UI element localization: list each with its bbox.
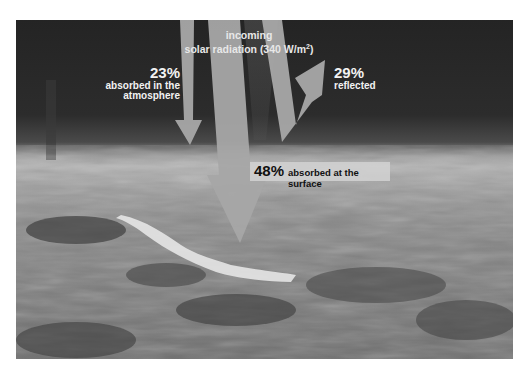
surface-label: 48% absorbed at the surface xyxy=(250,162,390,181)
title-line-2: solar radiation (340 W/m2) xyxy=(164,41,334,55)
surface-percent: 48% xyxy=(254,162,284,179)
incoming-radiation-title: incoming solar radiation (340 W/m2) xyxy=(164,30,334,55)
surface-text: absorbed at the surface xyxy=(288,167,390,189)
atmosphere-line-2: atmosphere xyxy=(80,91,180,102)
reflected-label: 29% reflected xyxy=(334,65,404,91)
reflected-text: reflected xyxy=(334,81,404,92)
title-line-1: incoming xyxy=(164,30,334,41)
atmosphere-label: 23% absorbed in the atmosphere xyxy=(80,65,180,102)
earth-photo: incoming solar radiation (340 W/m2) 23% … xyxy=(16,20,513,359)
atmosphere-percent: 23% xyxy=(80,65,180,81)
reflected-percent: 29% xyxy=(334,65,404,81)
